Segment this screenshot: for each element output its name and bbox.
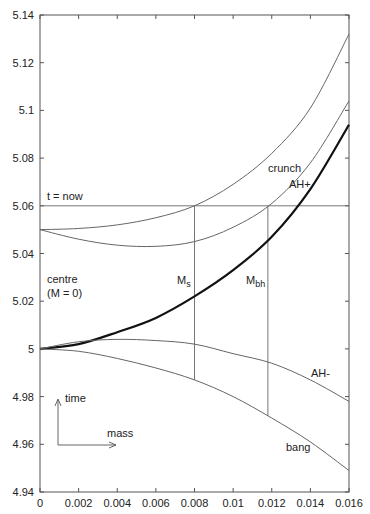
x-tick-label: 0.006 <box>142 497 170 509</box>
label-mass: mass <box>107 427 134 439</box>
x-tick-label: 0.016 <box>335 497 363 509</box>
x-tick-label: 0.002 <box>65 497 93 509</box>
label-ms: Ms <box>177 274 191 289</box>
y-tick-label: 4.94 <box>13 486 34 498</box>
y-tick-label: 5 <box>28 343 34 355</box>
y-tick-label: 4.98 <box>13 391 34 403</box>
y-tick-label: 5.14 <box>13 9 34 21</box>
y-tick-label: 4.96 <box>13 438 34 450</box>
y-tick-label: 5.08 <box>13 152 34 164</box>
x-tick-label: 0 <box>37 497 43 509</box>
label-centre-mass: (M = 0) <box>47 287 82 299</box>
x-tick-label: 0.008 <box>181 497 209 509</box>
x-tick-label: 0.01 <box>222 497 243 509</box>
label-ms-main: M <box>177 274 186 286</box>
label-t-now: t = now <box>47 190 83 202</box>
y-tick-label: 5.04 <box>13 248 34 260</box>
time-mass-axes-indicator: time mass <box>55 392 134 448</box>
chart: 4.944.964.9855.025.045.065.085.15.125.14… <box>0 0 370 514</box>
x-tick-label: 0.012 <box>258 497 286 509</box>
label-mbh: Mbh <box>246 274 265 289</box>
label-mbh-sub: bh <box>255 279 265 289</box>
y-tick-label: 5.12 <box>13 57 34 69</box>
y-axis-tick-labels: 4.944.964.9855.025.045.065.085.15.125.14 <box>13 9 34 498</box>
reference-lines <box>40 206 349 416</box>
y-tick-label: 5.06 <box>13 200 34 212</box>
label-mbh-main: M <box>246 274 255 286</box>
label-bang: bang <box>286 441 310 453</box>
label-centre: centre <box>47 273 78 285</box>
label-time: time <box>65 392 86 404</box>
label-ah-plus: AH+ <box>289 178 311 190</box>
label-ms-sub: s <box>186 279 191 289</box>
x-tick-label: 0.014 <box>297 497 325 509</box>
y-tick-label: 5.1 <box>19 104 34 116</box>
label-crunch: crunch <box>268 162 301 174</box>
x-axis-tick-labels: 00.0020.0040.0060.0080.010.0120.0140.016 <box>37 497 363 509</box>
y-tick-label: 5.02 <box>13 295 34 307</box>
label-ah-minus: AH- <box>311 367 330 379</box>
x-tick-label: 0.004 <box>103 497 131 509</box>
